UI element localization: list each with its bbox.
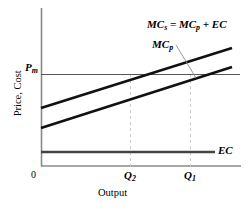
label-pm-sub: m: [32, 66, 38, 75]
x-axis-title: Output: [98, 188, 127, 199]
label-mcp-curve: MCp: [152, 39, 173, 52]
label-q2-main: Q: [124, 169, 132, 181]
label-mcp-sub: p: [169, 43, 173, 52]
mcs-curve-line: [41, 48, 232, 108]
label-q1-sub: 1: [192, 174, 196, 183]
label-q2-tick: Q2: [124, 170, 136, 183]
y-axis-title: Price, Cost: [13, 62, 24, 124]
label-mcp-main: MC: [152, 38, 169, 50]
label-q1-main: Q: [184, 169, 192, 181]
economics-chart-figure: MCs = MCp + EC MCp Pm EC Q2 Q1 0 Output …: [0, 0, 248, 209]
label-ec-curve: EC: [218, 145, 233, 156]
label-mcs-curve: MCs = MCp + EC: [147, 19, 227, 32]
label-q1-tick: Q1: [184, 170, 196, 183]
label-mcs-equals: = MC: [167, 18, 196, 30]
label-mcs-tail: + EC: [200, 18, 226, 30]
mcp-curve-line: [41, 67, 232, 128]
label-mcs-main: MC: [147, 18, 164, 30]
label-origin: 0: [31, 170, 36, 180]
label-pm-tick: Pm: [25, 62, 38, 75]
label-pm-main: P: [25, 61, 32, 73]
label-q2-sub: 2: [132, 174, 136, 183]
